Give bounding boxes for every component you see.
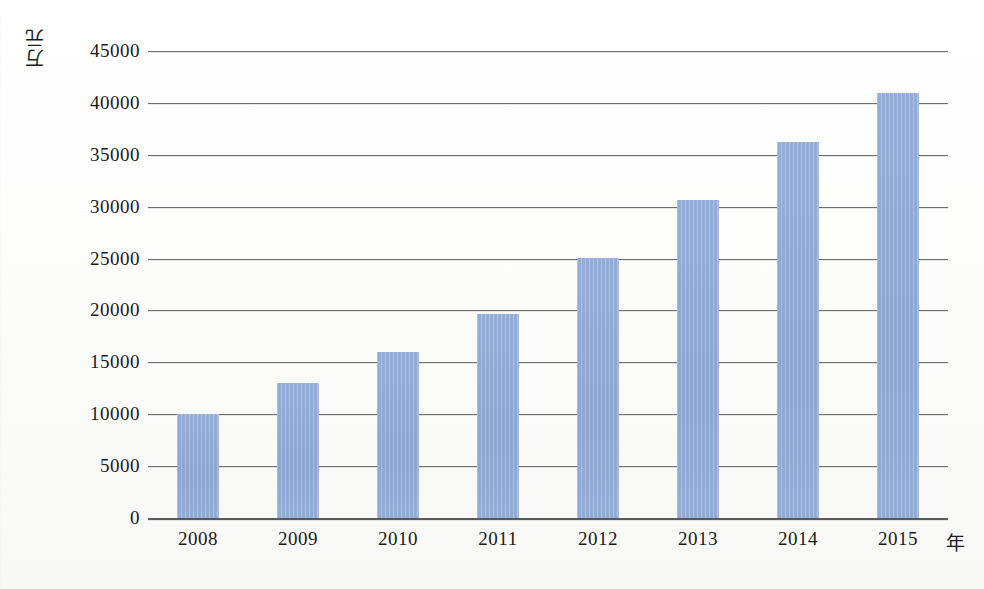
bar-2012 bbox=[577, 258, 619, 518]
chart-page: 万元 0500010000150002000025000300003500040… bbox=[0, 0, 984, 589]
y-axis-tick-label: 40000 bbox=[36, 92, 140, 114]
gridline bbox=[148, 259, 948, 260]
axis-baseline bbox=[148, 518, 948, 520]
bar-2013 bbox=[677, 200, 719, 518]
y-axis-tick-label: 35000 bbox=[36, 144, 140, 166]
x-axis-tick-labels: 20082009201020112012201320142015 bbox=[148, 528, 948, 562]
gridline bbox=[148, 207, 948, 208]
gridline bbox=[148, 310, 948, 311]
bar-2015 bbox=[877, 93, 919, 518]
gridline bbox=[148, 51, 948, 52]
bar-2014 bbox=[777, 142, 819, 518]
x-axis-unit-label: 年 bbox=[946, 528, 965, 555]
gridline bbox=[148, 466, 948, 467]
x-axis-tick-label: 2015 bbox=[853, 528, 943, 550]
gridline bbox=[148, 155, 948, 156]
gridline bbox=[148, 103, 948, 104]
y-axis-tick-label: 45000 bbox=[36, 40, 140, 62]
y-axis-tick-label: 5000 bbox=[36, 455, 140, 477]
bar-2009 bbox=[277, 383, 319, 518]
gridline bbox=[148, 414, 948, 415]
plot-area bbox=[148, 51, 948, 518]
x-axis-tick-label: 2013 bbox=[653, 528, 743, 550]
x-axis-tick-label: 2008 bbox=[153, 528, 243, 550]
x-axis-tick-label: 2009 bbox=[253, 528, 343, 550]
x-axis-tick-label: 2011 bbox=[453, 528, 543, 550]
y-axis-tick-label: 25000 bbox=[36, 248, 140, 270]
y-axis-tick-label: 10000 bbox=[36, 403, 140, 425]
x-axis-tick-label: 2014 bbox=[753, 528, 843, 550]
bar-2011 bbox=[477, 314, 519, 518]
y-axis-tick-label: 30000 bbox=[36, 196, 140, 218]
y-axis-tick-label: 0 bbox=[36, 507, 140, 529]
gridline bbox=[148, 362, 948, 363]
y-axis-tick-labels: 0500010000150002000025000300003500040000… bbox=[36, 51, 140, 518]
x-axis-tick-label: 2012 bbox=[553, 528, 643, 550]
x-axis-tick-label: 2010 bbox=[353, 528, 443, 550]
y-axis-tick-label: 20000 bbox=[36, 299, 140, 321]
bar-2008 bbox=[177, 414, 219, 518]
y-axis-tick-label: 15000 bbox=[36, 351, 140, 373]
bar-2010 bbox=[377, 352, 419, 518]
